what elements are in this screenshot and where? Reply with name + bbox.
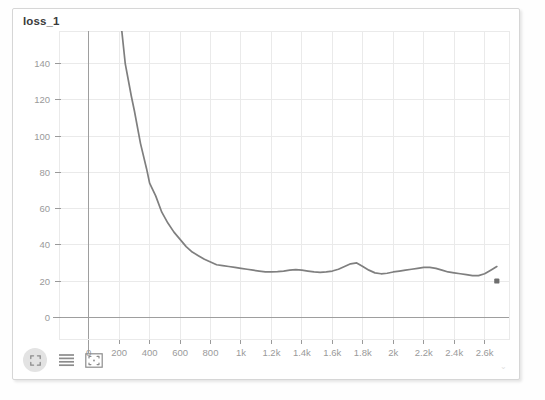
x-tick-label: 200: [111, 347, 127, 358]
x-tick-label: 2.6k: [476, 347, 494, 358]
y-tick-label: 40: [39, 239, 50, 250]
x-tick-label: 1.6k: [323, 347, 341, 358]
x-tick-label: 2.2k: [415, 347, 433, 358]
y-tick-label: 100: [34, 131, 50, 142]
axis-lines: [53, 31, 509, 353]
x-tick-label: 800: [203, 347, 219, 358]
x-tick-label: 1.4k: [293, 347, 311, 358]
grid-lines: [59, 31, 509, 339]
plot-area[interactable]: 02040608010012014002004006008001k1.2k1.4…: [13, 9, 521, 381]
page-root: loss_1 02040608010012014002004006008001k…: [0, 0, 545, 400]
x-tick-label: 400: [142, 347, 158, 358]
series-loss_1: [116, 9, 497, 276]
horizontal-lines-glyph: [58, 353, 75, 367]
chart-toolbar: [23, 347, 103, 373]
line-chart-svg[interactable]: 02040608010012014002004006008001k1.2k1.4…: [13, 9, 521, 381]
y-tick-label: 120: [34, 94, 50, 105]
y-tick-label: 20: [39, 276, 50, 287]
series-line: [116, 9, 497, 276]
x-tick-label: 1.2k: [262, 347, 280, 358]
y-tick-label: 60: [39, 203, 50, 214]
series-end-marker[interactable]: [494, 278, 499, 283]
x-tick-label: 2k: [388, 347, 398, 358]
x-tick-label: 2.4k: [445, 347, 463, 358]
fullscreen-expand-icon[interactable]: [23, 348, 47, 372]
y-axis-ticks: 020406080100120140: [34, 58, 61, 323]
y-tick-label: 0: [45, 312, 50, 323]
x-tick-label: 1.8k: [354, 347, 372, 358]
y-tick-label: 80: [39, 167, 50, 178]
chart-card: loss_1 02040608010012014002004006008001k…: [12, 8, 520, 380]
plot-frame: [59, 31, 509, 339]
crop-corners-icon[interactable]: [85, 351, 103, 369]
horizontal-lines-icon[interactable]: [57, 351, 75, 369]
x-tick-label: 600: [172, 347, 188, 358]
x-tick-label: 1k: [236, 347, 246, 358]
y-tick-label: 140: [34, 58, 50, 69]
faint-watermark: ⌄: [500, 362, 507, 371]
crop-corners-glyph: [85, 353, 103, 368]
x-axis-ticks: 02004006008001k1.2k1.4k1.6k1.8k2k2.2k2.4…: [59, 339, 509, 358]
fullscreen-expand-glyph: [29, 354, 42, 367]
